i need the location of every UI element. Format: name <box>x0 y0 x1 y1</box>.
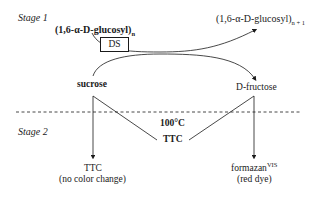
temperature-label: 100°C <box>160 119 185 129</box>
right-result-note: (red dye) <box>237 175 272 185</box>
right-result-formazan: formazanVIS <box>231 164 277 174</box>
fructose-label: D-fructose <box>236 83 277 93</box>
left-result-note: (no color change) <box>59 175 126 185</box>
reactant-polymer-label: (1,6-α-D-glucosyl)n <box>55 25 135 35</box>
stage-2-label: Stage 2 <box>18 127 48 137</box>
enzyme-ds-box: DS <box>100 37 129 52</box>
left-result-ttc: TTC <box>84 164 102 174</box>
product-polymer-label: (1,6-α-D-glucosyl)n + 1 <box>216 14 305 24</box>
sucrose-to-fructose-arc <box>93 54 255 79</box>
sucrose-label: sucrose <box>77 80 107 90</box>
stage-1-label: Stage 1 <box>18 13 48 23</box>
reagent-ttc-label: TTC <box>163 135 183 145</box>
